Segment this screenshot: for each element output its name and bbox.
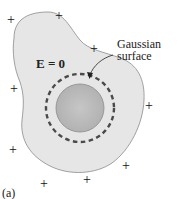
positive-charge-icon: + [10,81,18,96]
positive-charge-icon: + [122,158,130,173]
callout-label-line2: surface [117,49,152,63]
positive-charge-icon: + [145,98,153,113]
positive-charge-icon: + [7,12,15,27]
gaussian-diagram: E = 0 Gaussian surface + + + + + + + + +… [0,0,195,199]
positive-charge-icon: + [40,176,48,191]
inner-sphere [56,84,104,132]
positive-charge-icon: + [55,8,63,23]
positive-charge-icon: + [83,172,91,187]
panel-label: (a) [2,186,15,199]
positive-charge-icon: + [90,41,98,56]
positive-charge-icon: + [9,142,17,157]
field-label: E = 0 [36,56,65,71]
